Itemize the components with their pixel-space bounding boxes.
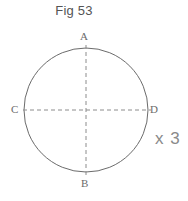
vertex-label-c: C [11, 103, 18, 115]
multiplier-annotation: x 3 [155, 129, 181, 149]
circle-diagram [0, 0, 188, 201]
vertex-label-b: B [81, 177, 88, 189]
vertex-label-d: D [150, 103, 158, 115]
vertex-label-a: A [80, 30, 88, 42]
figure-container: Fig 53 A B C D x 3 [0, 0, 188, 201]
